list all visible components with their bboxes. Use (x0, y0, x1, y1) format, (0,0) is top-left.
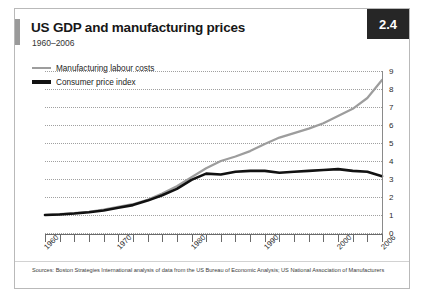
x-axis-tick (367, 235, 368, 242)
series-lines (45, 71, 382, 233)
y-axis-tick-label: 8 (389, 85, 393, 94)
series-line (45, 80, 382, 215)
y-axis-tick-label: 4 (389, 157, 393, 166)
y-axis-tick-label: 5 (389, 139, 393, 148)
y-axis-tick-label: 9 (389, 67, 393, 76)
x-axis-tick (177, 235, 178, 242)
series-line (45, 169, 382, 215)
source-note: Sources: Boston Strategies International… (32, 267, 384, 273)
source-divider (15, 261, 409, 262)
plot-area (45, 71, 382, 233)
x-axis-tick (323, 235, 324, 242)
x-axis-tick (74, 235, 75, 242)
y-axis-line (382, 71, 383, 235)
y-axis-tick-label: 3 (389, 175, 393, 184)
title-accent-bar (15, 19, 20, 45)
x-axis-tick (294, 235, 295, 242)
y-axis-tick-label: 7 (389, 103, 393, 112)
figure-card: US GDP and manufacturing prices 1960–200… (14, 8, 410, 289)
x-axis-tick (235, 235, 236, 242)
page-title: US GDP and manufacturing prices (31, 20, 245, 35)
x-axis-line (45, 234, 383, 235)
x-axis-tick (250, 235, 251, 242)
x-axis-tick (104, 235, 105, 242)
x-axis-tick (309, 235, 310, 242)
x-axis-tick (89, 235, 90, 242)
y-axis-tick-label: 2 (389, 193, 393, 202)
chart-subtitle: 1960–2006 (32, 38, 75, 48)
legend-swatch-icon (32, 67, 51, 69)
figure-number-badge: 2.4 (367, 9, 409, 39)
y-axis-tick-label: 1 (389, 211, 393, 220)
x-axis-tick (221, 235, 222, 242)
x-axis-tick (162, 235, 163, 242)
y-axis-tick-label: 6 (389, 121, 393, 130)
x-axis-tick (148, 235, 149, 242)
